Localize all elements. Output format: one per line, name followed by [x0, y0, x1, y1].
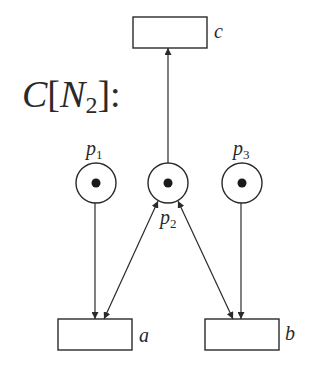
transition-b	[205, 319, 279, 350]
transition-a	[58, 319, 132, 350]
transition-label-c: c	[214, 20, 223, 43]
petri-net-diagram	[0, 0, 310, 367]
transition-label-a: a	[139, 324, 149, 347]
place-label-p2: p2	[160, 206, 177, 232]
place-label-p1: p1	[86, 137, 103, 163]
token-icon	[238, 179, 247, 188]
place-label-p3: p3	[233, 137, 250, 163]
transition-label-b: b	[285, 322, 295, 345]
transition-c	[133, 17, 207, 48]
arc-a-p2-bidirectional	[104, 201, 158, 319]
place-p3	[222, 163, 262, 203]
place-p2	[148, 163, 188, 203]
diagram-title: C[N2]:	[22, 72, 121, 119]
token-icon	[164, 179, 173, 188]
arc-b-p2-bidirectional	[178, 201, 233, 319]
place-p1	[76, 163, 116, 203]
token-icon	[92, 179, 101, 188]
